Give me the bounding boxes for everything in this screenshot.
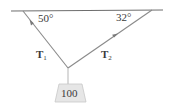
weight-label: 100 [61,87,78,99]
angle-right-label: 32° [116,11,131,23]
tension-t2-sub: 2 [108,54,112,62]
ceiling-line [11,10,163,11]
force-diagram: 50° 32° T1 T2 100 [0,0,171,108]
tension-t2-label: T2 [101,48,112,62]
tension-t1-sub: 1 [43,54,47,62]
tension-t1-label: T1 [36,48,47,62]
angle-left-label: 50° [38,12,53,24]
